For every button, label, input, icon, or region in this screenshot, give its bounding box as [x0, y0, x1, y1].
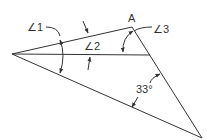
angle-given-label: 33°	[136, 84, 153, 95]
angle-3-leader	[134, 27, 152, 31]
angle-2-arrow-bottom	[88, 57, 90, 70]
angle-1-arc	[60, 40, 63, 73]
angle-3-arc	[123, 31, 133, 52]
angle-3-label: ∠3	[153, 24, 169, 35]
angle-2-label: ∠2	[84, 41, 100, 52]
angle-2-arrow-top	[83, 21, 88, 33]
vertex-a-label: A	[128, 13, 135, 24]
interior-line	[12, 54, 150, 55]
edge-left-to-bottom	[12, 54, 202, 138]
angle-1-label: ∠1	[27, 22, 43, 33]
angle-1-leader	[46, 27, 60, 36]
angle-given-arc-top	[150, 74, 160, 83]
angle-given-arc-bottom	[132, 97, 138, 107]
